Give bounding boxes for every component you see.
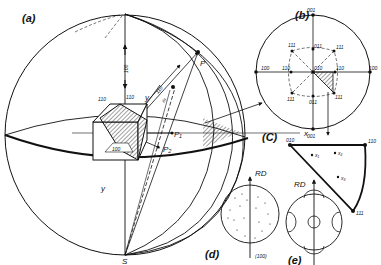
plane-label-100: (100): [255, 253, 267, 259]
panel-label-e: (e): [288, 254, 302, 265]
pole-110-right: 110: [336, 65, 344, 71]
label-P2: P₂: [163, 145, 171, 154]
panel-d-pole-figure: [221, 177, 279, 258]
panel-label-c: (C): [262, 131, 278, 143]
pole-001-top: 001: [307, 7, 316, 13]
panel-label-a: (a): [22, 12, 36, 24]
pole-100-right: 100: [369, 65, 378, 71]
label-110-right: 110: [126, 94, 134, 100]
pole-110-left: 110: [282, 65, 290, 71]
label-100-vertical: 100: [123, 64, 129, 73]
point-x2: x₂: [337, 150, 343, 156]
point-x3: x₃: [340, 175, 346, 181]
label-y-top: y: [144, 93, 150, 102]
pole-010-center: 010: [314, 65, 323, 71]
panel-c-triangle: [288, 143, 367, 213]
stereographic-projection-figure: 100 (a) P S P₁ P₂ y y x 110 110 100 110 …: [0, 0, 381, 265]
corner-010: 010: [286, 137, 295, 143]
pole-100-left: 100: [261, 65, 270, 71]
point-projected: [171, 85, 175, 89]
panel-a-sphere: [5, 14, 300, 255]
corner-111: 111: [356, 210, 364, 216]
label-110-left: 110: [98, 96, 106, 102]
point-x1: x₁: [314, 152, 320, 158]
label-P: P: [200, 59, 206, 68]
label-110-diag: 110: [154, 85, 164, 95]
panel-d-scatter: [227, 193, 270, 238]
pole-111-ll: 111: [287, 96, 295, 102]
label-P1: P₁: [174, 130, 182, 139]
pole-011-top: 011: [314, 43, 322, 49]
corner-110: 110: [368, 138, 376, 144]
point-P: [196, 50, 200, 54]
panel-label-d: (d): [205, 248, 219, 260]
rd-label-e: RD: [294, 180, 306, 189]
panel-e-pole-figure: [286, 180, 342, 265]
pole-111-ul: 111: [288, 42, 296, 48]
pole-011-bottom: 011: [309, 99, 317, 105]
label-S: S: [122, 257, 128, 265]
pole-001-bottom: 001: [307, 133, 316, 139]
pole-111-lr: 111: [335, 94, 343, 100]
rd-label-d: RD: [255, 169, 267, 178]
pole-111-ur: 111: [336, 44, 344, 50]
point-P2: [157, 146, 160, 149]
label-y-bottom: y: [100, 184, 106, 193]
label-100-face: 100: [112, 146, 121, 152]
panel-b-stereogram: [256, 15, 370, 135]
